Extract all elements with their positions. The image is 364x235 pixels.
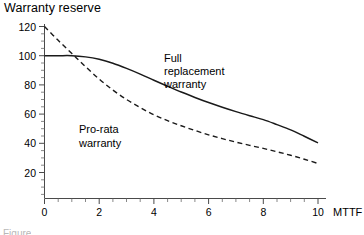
figure-caption: Figure [3, 228, 31, 235]
y-axis-tick-labels: 120 100 80 60 40 20 [18, 21, 36, 179]
chart-figure: Warranty reserve [0, 0, 364, 235]
x-axis-label: MTTF [333, 206, 363, 218]
chart-plot-area: 120 100 80 60 40 20 [0, 0, 364, 235]
x-tick-label: 8 [260, 206, 266, 218]
x-tick-label: 0 [42, 206, 48, 218]
annotation-line: replacement [164, 65, 225, 77]
y-tick-label: 80 [24, 79, 36, 91]
annotation-line: Full [164, 52, 182, 64]
annotation-line: warranty [163, 78, 207, 90]
pro-rata-warranty-label: Pro-rata warranty [78, 123, 122, 149]
x-tick-label: 6 [206, 206, 212, 218]
y-tick-label: 120 [18, 21, 36, 33]
x-axis-tick-labels: 0 2 4 6 8 10 [42, 206, 324, 218]
axes [45, 24, 327, 199]
y-tick-label: 100 [18, 50, 36, 62]
x-tick-label: 2 [96, 206, 102, 218]
annotation-line: warranty [78, 137, 122, 149]
y-tick-label: 20 [24, 167, 36, 179]
x-tick-label: 4 [151, 206, 157, 218]
y-tick-label: 60 [24, 108, 36, 120]
y-tick-label: 40 [24, 137, 36, 149]
full-replacement-warranty-label: Full replacement warranty [163, 52, 225, 90]
annotation-line: Pro-rata [79, 123, 120, 135]
x-tick-label: 10 [312, 206, 324, 218]
x-axis-minor-ticks [58, 199, 304, 203]
